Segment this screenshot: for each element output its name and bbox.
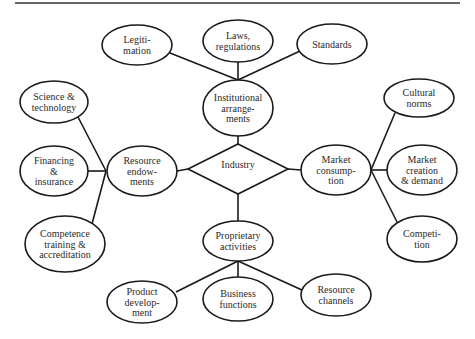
financing-label-line: insurance [35, 176, 74, 187]
resource-channels-label-line: Resource [317, 284, 355, 295]
institutional-label-line: ments [226, 113, 250, 124]
product-dev-label-line: Product [126, 286, 157, 297]
market-creation-label-line: Market [408, 154, 437, 165]
industry-concept-diagram: IndustryInstitutionalarrange-mentsResour… [0, 0, 475, 339]
node-competition: Competi-tion [387, 216, 457, 262]
node-resource-endowments: Resourceendow-ments [107, 146, 177, 196]
node-business: Businessfunctions [203, 277, 273, 321]
market-creation-label-line: creation [406, 165, 438, 176]
node-proprietary: Proprietaryactivities [203, 221, 273, 261]
business-label-line: functions [219, 299, 256, 310]
node-industry: Industry [188, 144, 288, 194]
edge-industry-to-resource-endowments [177, 169, 188, 171]
resource-endowments-label-line: Resource [123, 155, 161, 166]
competence-label-line: accreditation [39, 249, 91, 260]
financing-label-line: Financing [34, 155, 74, 166]
node-resource-channels: Resourcechannels [301, 274, 371, 316]
edge-industry-to-market-consumption [288, 169, 301, 170]
business-label-line: Business [220, 288, 256, 299]
market-consumption-label-line: tion [328, 175, 344, 186]
market-consumption-label-line: Market [322, 154, 351, 165]
competence-label-line: training & [44, 239, 86, 250]
institutional-label-line: Institutional [214, 92, 263, 103]
node-competence: Competencetraining &accreditation [25, 216, 105, 272]
node-cultural: Culturalnorms [384, 79, 454, 117]
resource-endowments-label-line: endow- [127, 166, 157, 177]
node-legitimation: Legiti-mation [102, 25, 172, 65]
market-creation-label-line: & demand [401, 175, 443, 186]
proprietary-label-line: Proprietary [216, 230, 261, 241]
institutional-label-line: arrange- [221, 103, 254, 114]
cultural-label-line: norms [407, 98, 432, 109]
standards-label-line: Standards [312, 39, 352, 50]
science-label-line: technology [32, 102, 76, 113]
laws-label-line: Laws, [226, 30, 250, 41]
node-institutional: Institutionalarrange-ments [203, 80, 273, 136]
node-science: Science &technology [20, 81, 88, 123]
cultural-label-line: Cultural [403, 87, 436, 98]
science-label-line: Science & [33, 91, 75, 102]
financing-label-line: & [50, 166, 58, 177]
legitimation-label-line: mation [123, 45, 151, 56]
competition-label-line: tion [414, 239, 430, 250]
node-product-dev: Productdevelop-ment [107, 281, 177, 323]
node-market-creation: Marketcreation& demand [387, 145, 457, 195]
resource-endowments-label-line: ments [130, 176, 154, 187]
node-financing: Financing&insurance [20, 146, 88, 196]
node-market-consumption: Marketconsump-tion [301, 145, 371, 195]
product-dev-label-line: ment [132, 307, 152, 318]
node-standards: Standards [297, 24, 367, 64]
resource-channels-label-line: channels [319, 295, 354, 306]
edge-resource-endowments-to-competence [92, 171, 106, 224]
industry-label-line: Industry [221, 159, 254, 170]
laws-label-line: regulations [216, 41, 261, 52]
competence-label-line: Competence [40, 228, 91, 239]
competition-label-line: Competi- [403, 228, 441, 239]
market-consumption-label-line: consump- [316, 165, 355, 176]
product-dev-label-line: develop- [125, 297, 160, 308]
proprietary-label-line: activities [220, 241, 256, 252]
legitimation-label-line: Legiti- [123, 34, 150, 45]
node-laws: Laws,regulations [203, 20, 273, 62]
